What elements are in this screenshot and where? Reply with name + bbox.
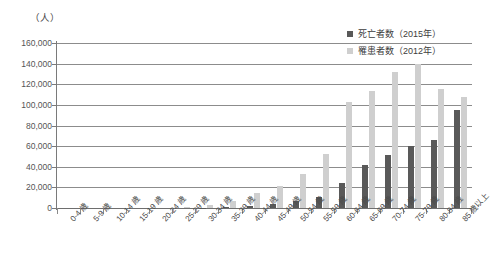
- bar-group: [149, 43, 172, 208]
- bar-group: [218, 43, 241, 208]
- bar-group: [172, 43, 195, 208]
- x-axis-label-cell: 30-34 歳: [195, 214, 218, 268]
- bar-group: [195, 43, 218, 208]
- x-axis-label-cell: 85 歳以上: [449, 214, 472, 268]
- bar-group: [80, 43, 103, 208]
- bar: [461, 97, 467, 208]
- bar-group: [126, 43, 149, 208]
- x-axis-tick-labels: 0-4 歳5-9 歳10-14 歳15-19 歳20-24 歳25-29 歳30…: [57, 214, 472, 268]
- x-axis-label-cell: 40-44 歳: [242, 214, 265, 268]
- bar: [415, 64, 421, 208]
- y-axis-tick-label: 140,000: [21, 59, 52, 69]
- y-axis-tick: [52, 167, 56, 168]
- legend-label: 罹患者数（2012年）: [358, 44, 441, 57]
- y-axis-tick: [52, 64, 56, 65]
- x-axis-label-cell: 5-9 歳: [80, 214, 103, 268]
- y-axis-tick-label: 60,000: [26, 141, 52, 151]
- x-axis-label-cell: 80-84 歳: [426, 214, 449, 268]
- x-axis-label-cell: 10-14 歳: [103, 214, 126, 268]
- y-axis-tick: [52, 105, 56, 106]
- y-axis-tick: [52, 84, 56, 85]
- legend-item: 罹患者数（2012年）: [347, 44, 441, 57]
- bar-group: [311, 43, 334, 208]
- x-axis-label-cell: 50-54 歳: [288, 214, 311, 268]
- bar-group: [403, 43, 426, 208]
- x-axis-label-cell: 65-69 歳: [357, 214, 380, 268]
- bar-group: [357, 43, 380, 208]
- x-axis-label-cell: 70-74 歳: [380, 214, 403, 268]
- y-axis-tick: [52, 43, 56, 44]
- plot-area: [57, 43, 472, 208]
- y-axis-tick-label: 160,000: [21, 38, 52, 48]
- x-axis-label-cell: 25-29 歳: [172, 214, 195, 268]
- legend-swatch-incidence: [347, 48, 353, 54]
- y-axis-tick: [52, 208, 56, 209]
- bar-group: [380, 43, 403, 208]
- chart-legend: 死亡者数（2015年）罹患者数（2012年）: [347, 27, 441, 57]
- bar-group: [57, 43, 80, 208]
- bar-group: [334, 43, 357, 208]
- y-axis-unit-label: （人）: [30, 10, 60, 24]
- y-axis-tick-label: 100,000: [21, 100, 52, 110]
- bar: [392, 72, 398, 208]
- legend-swatch-death: [347, 31, 353, 37]
- bar-group: [103, 43, 126, 208]
- y-axis-tick-labels: 160,000140,000120,000100,00080,00060,000…: [0, 43, 52, 208]
- y-axis-tick-label: 80,000: [26, 121, 52, 131]
- bar-group: [288, 43, 311, 208]
- y-axis-tick-label: 20,000: [26, 182, 52, 192]
- bar: [346, 102, 352, 208]
- bar-group: [242, 43, 265, 208]
- legend-label: 死亡者数（2015年）: [358, 27, 441, 40]
- bar-group: [426, 43, 449, 208]
- x-axis-label-cell: 20-24 歳: [149, 214, 172, 268]
- y-axis-tick-label: 120,000: [21, 79, 52, 89]
- y-axis-tick: [52, 146, 56, 147]
- x-axis-label-cell: 45-49 歳: [265, 214, 288, 268]
- bar: [438, 89, 444, 208]
- x-axis-label-cell: 55-59 歳: [311, 214, 334, 268]
- legend-item: 死亡者数（2015年）: [347, 27, 441, 40]
- bar: [369, 91, 375, 208]
- bar-series-container: [57, 43, 472, 208]
- bar-group: [449, 43, 472, 208]
- x-axis-label-cell: 0-4 歳: [57, 214, 80, 268]
- x-axis-label-cell: 35-39 歳: [218, 214, 241, 268]
- x-axis-label-cell: 15-19 歳: [126, 214, 149, 268]
- x-axis-label-cell: 75-79 歳: [403, 214, 426, 268]
- x-axis-label-cell: 60-64 歳: [334, 214, 357, 268]
- y-axis-tick: [52, 126, 56, 127]
- y-axis-tick: [52, 187, 56, 188]
- y-axis-tick-label: 40,000: [26, 162, 52, 172]
- bar-group: [265, 43, 288, 208]
